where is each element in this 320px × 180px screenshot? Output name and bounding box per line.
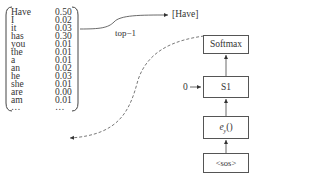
embedding-node: ey() [203, 116, 249, 139]
sos-node: <sos> [203, 153, 249, 173]
top1-arrow [80, 15, 168, 29]
output-token-label: [Have] [172, 9, 198, 19]
top1-label: top−1 [115, 28, 136, 38]
softmax-label: Softmax [210, 39, 242, 49]
softmax-node: Softmax [203, 35, 249, 54]
s1-node: S1 [203, 76, 249, 98]
initial-state-label: 0 [183, 82, 188, 92]
embed-paren: () [226, 122, 232, 132]
s1-label: S1 [221, 82, 231, 92]
sos-label: <sos> [216, 158, 236, 168]
